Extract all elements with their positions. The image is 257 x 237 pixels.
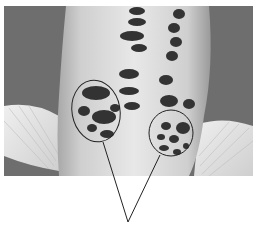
- pointer-line-right: [128, 155, 160, 222]
- highlight-circle-left: [67, 76, 125, 145]
- annotation-overlay: [0, 0, 257, 237]
- highlight-circle-right: [149, 110, 193, 156]
- pointer-line-left: [103, 142, 128, 222]
